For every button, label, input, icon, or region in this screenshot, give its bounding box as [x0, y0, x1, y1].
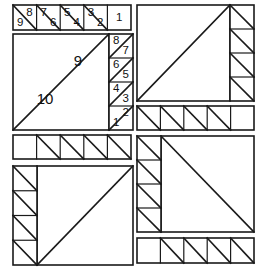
unit-bottom-right-half-square-block [137, 136, 254, 232]
unit-left-middle-sawtooth-strip [13, 135, 131, 159]
main-numbered-half-square-block-piece-label-1: 10 [37, 90, 54, 107]
top-numbered-sawtooth-strip-cell-0-label-1: 8 [26, 6, 32, 18]
main-numbered-half-square-block-strip-cell-3-label-0: 2 [123, 106, 129, 118]
main-numbered-half-square-block-strip-cell-0-label-1: 7 [123, 44, 129, 56]
main-numbered-half-square-block-strip-cell-0-label-0: 8 [113, 34, 119, 46]
main-numbered-half-square-block-strip-cell-3-label-1: 1 [113, 116, 119, 128]
unit-bottom-left-half-square-block [13, 166, 133, 265]
unit-top-right-half-square-block [137, 5, 254, 101]
top-numbered-sawtooth-strip-cell-4-label-0: 1 [116, 11, 122, 23]
top-numbered-sawtooth-strip-cell-3-label-0: 3 [88, 6, 94, 18]
top-numbered-sawtooth-strip-cell-0-label-0: 9 [17, 16, 23, 28]
main-numbered-half-square-block-strip-cell-1-label-1: 5 [123, 68, 129, 80]
top-numbered-sawtooth-strip-cell-1-label-0: 7 [40, 6, 46, 18]
unit-top-numbered-sawtooth-strip: 987654321 [13, 5, 131, 30]
unit-main-numbered-half-square-block: 91087654321 [13, 34, 133, 130]
top-numbered-sawtooth-strip-cell-3-label-1: 2 [97, 16, 103, 28]
top-numbered-sawtooth-strip-cell-2-label-0: 5 [64, 6, 70, 18]
top-numbered-sawtooth-strip-cell-1-label-1: 6 [50, 16, 56, 28]
main-numbered-half-square-block-strip-cell-1-label-0: 6 [113, 58, 119, 70]
unit-bottom-right-sawtooth-strip [137, 238, 254, 263]
pattern-canvas: 98765432191087654321 [0, 0, 257, 272]
unit-right-middle-sawtooth-strip [137, 106, 254, 130]
piecing-pattern-sheet: 98765432191087654321 [0, 0, 257, 272]
main-numbered-half-square-block-piece-label-0: 9 [74, 52, 82, 69]
main-numbered-half-square-block-strip-cell-2-label-0: 4 [113, 82, 120, 94]
main-numbered-half-square-block-strip-cell-2-label-1: 3 [123, 92, 129, 104]
top-numbered-sawtooth-strip-cell-2-label-1: 4 [74, 16, 81, 28]
